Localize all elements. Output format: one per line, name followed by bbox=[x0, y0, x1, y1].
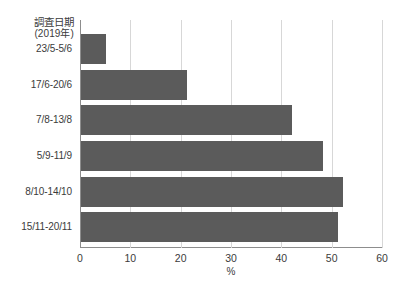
value-tick-label: 40 bbox=[266, 252, 296, 264]
value-tick-label: 50 bbox=[317, 252, 347, 264]
bar bbox=[81, 34, 106, 64]
value-axis-title: % bbox=[221, 266, 241, 277]
category-label: 23/5-5/6 bbox=[0, 43, 72, 54]
gridline bbox=[382, 20, 383, 248]
value-tick-label: 30 bbox=[216, 252, 246, 264]
clipped-title bbox=[120, 0, 240, 4]
bar bbox=[81, 212, 338, 242]
category-labels: 23/5-5/617/6-20/67/8-13/85/9-11/98/10-14… bbox=[0, 34, 74, 248]
category-label: 17/6-20/6 bbox=[0, 79, 72, 90]
category-label: 7/8-13/8 bbox=[0, 114, 72, 125]
value-tick-label: 0 bbox=[65, 252, 95, 264]
value-tick-label: 20 bbox=[166, 252, 196, 264]
value-axis-tick-labels: 0102030405060 bbox=[0, 252, 404, 268]
bar bbox=[81, 70, 187, 100]
category-label: 5/9-11/9 bbox=[0, 150, 72, 161]
plot-area bbox=[80, 20, 382, 248]
bar bbox=[81, 105, 292, 135]
value-tick-label: 60 bbox=[367, 252, 397, 264]
bar bbox=[81, 141, 323, 171]
category-label: 15/11-20/11 bbox=[0, 221, 72, 232]
category-label: 8/10-14/10 bbox=[0, 186, 72, 197]
value-tick-label: 10 bbox=[115, 252, 145, 264]
bar-chart: 調査日期 (2019年) 23/5-5/617/6-20/67/8-13/85/… bbox=[0, 0, 404, 284]
category-axis-header-line1: 調査日期 bbox=[0, 16, 74, 28]
bar bbox=[81, 177, 343, 207]
